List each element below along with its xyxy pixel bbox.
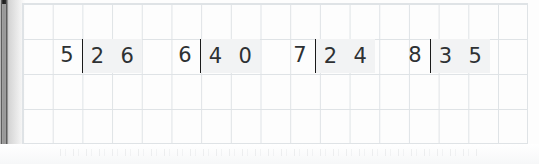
divisor-digit: 8 bbox=[400, 38, 430, 73]
dividend-digit: 0 bbox=[230, 38, 260, 73]
worksheet-page: 5 2 6 6 4 0 7 bbox=[0, 0, 539, 164]
dividend-digit: 2 bbox=[83, 38, 113, 73]
division-problems-container: 5 2 6 6 4 0 7 bbox=[0, 0, 539, 164]
scan-artifacts bbox=[60, 149, 480, 156]
dividend-digit: 5 bbox=[460, 38, 490, 73]
dividend-digit: 6 bbox=[112, 38, 142, 73]
divisor-digit: 5 bbox=[52, 38, 82, 73]
divisor-digit: 6 bbox=[170, 38, 200, 73]
dividend-digit: 3 bbox=[431, 38, 461, 73]
dividend-digit: 4 bbox=[345, 38, 375, 73]
dividend-digit: 2 bbox=[316, 38, 346, 73]
divisor-digit: 7 bbox=[285, 38, 315, 73]
dividend-digit: 4 bbox=[201, 38, 231, 73]
